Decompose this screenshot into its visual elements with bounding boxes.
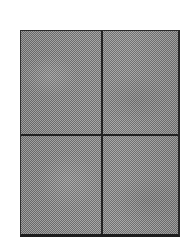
panel-top-left	[21, 31, 101, 134]
figure-frame	[20, 30, 180, 237]
panel-bottom-left	[21, 136, 101, 235]
figure-canvas	[0, 0, 192, 251]
panel-top-right	[103, 31, 179, 134]
horizontal-divider	[21, 134, 178, 136]
vertical-divider	[101, 31, 103, 234]
panel-bottom-right	[103, 136, 179, 235]
